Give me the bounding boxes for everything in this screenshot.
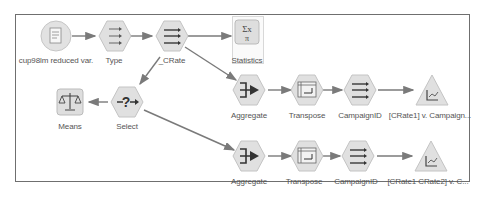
node-campaignid-2[interactable] [338, 136, 378, 176]
node-transpose-2[interactable] [287, 136, 327, 176]
label-campaignid-2: CampaignID [334, 177, 377, 186]
label-aggregate-1: Aggregate [231, 111, 267, 120]
label-transpose-1: Transpose [289, 111, 326, 120]
edge-select-aggregate2 [144, 110, 234, 150]
label-statistics: Statistics [231, 56, 262, 65]
svg-text:?: ? [122, 94, 131, 110]
node-transpose-1[interactable] [287, 70, 327, 110]
label-select: Select [116, 122, 138, 131]
aggregate-icon [229, 136, 269, 176]
node-plot-1[interactable] [412, 70, 452, 110]
transpose-icon [287, 136, 327, 176]
node-means[interactable] [50, 82, 90, 122]
node-aggregate-2[interactable] [229, 136, 269, 176]
svg-text:π: π [245, 34, 249, 43]
plot-icon [412, 70, 452, 110]
svg-text:Σx: Σx [242, 24, 252, 34]
select-icon: ? [107, 82, 147, 122]
label-means: Means [58, 122, 82, 131]
node-crate[interactable] [152, 16, 192, 56]
label-aggregate-2: Aggregate [231, 177, 267, 186]
plot-icon [411, 136, 451, 176]
node-aggregate-1[interactable] [229, 70, 269, 110]
derive-icon [338, 136, 378, 176]
label-plot-2: [CRate1 CRate2] v. C... [387, 177, 468, 186]
node-type[interactable] [95, 16, 135, 56]
label-campaignid-1: CampaignID [338, 111, 381, 120]
node-source[interactable] [36, 16, 76, 56]
edge-crate-select [140, 57, 160, 84]
node-plot-2[interactable] [411, 136, 451, 176]
derive-icon [340, 70, 380, 110]
label-source: cup98lm reduced var. [19, 56, 94, 65]
node-select[interactable]: ? [107, 82, 147, 122]
label-type: Type [106, 56, 123, 65]
derive-icon [152, 16, 192, 56]
label-crate: _CRate [159, 56, 186, 65]
type-icon [95, 16, 135, 56]
label-transpose-2: Transpose [286, 177, 323, 186]
label-plot-1: [CRate1] v. Campaign... [389, 111, 471, 120]
sigma-icon: Σx π [227, 14, 267, 54]
aggregate-icon [229, 70, 269, 110]
transpose-icon [287, 70, 327, 110]
node-statistics[interactable]: Σx π [227, 14, 267, 54]
file-icon [36, 16, 76, 56]
scale-icon [50, 82, 90, 122]
node-campaignid-1[interactable] [340, 70, 380, 110]
